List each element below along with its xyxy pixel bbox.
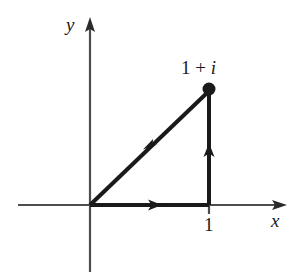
- hypotenuse-segment: [90, 91, 209, 205]
- x-axis-tick-label-one: 1: [204, 215, 214, 234]
- point-label-imaginary-unit: i: [211, 57, 216, 78]
- diagram-canvas: [0, 0, 299, 272]
- point-marker-one-plus-i: [203, 83, 216, 96]
- point-label-real-part: 1 +: [181, 57, 211, 78]
- x-axis-label: x: [271, 211, 279, 230]
- y-axis-label: y: [66, 15, 74, 34]
- point-label-one-plus-i: 1 + i: [181, 58, 216, 77]
- complex-plane-diagram: y x 1 + i 1: [0, 0, 299, 272]
